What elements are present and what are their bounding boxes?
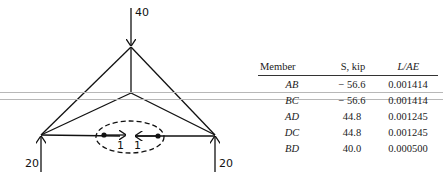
reaction-label-right: 20: [219, 157, 233, 170]
cell-member: DC: [258, 127, 326, 138]
header-force: S, kip: [327, 61, 378, 72]
table-row: AB − 56.6 0.001414: [258, 76, 438, 92]
cell-force: 40.0: [326, 143, 378, 154]
unit-load-label-right: 1: [134, 139, 141, 152]
table-row: AD 44.8 0.001245: [258, 108, 438, 124]
cell-force: − 56.6: [326, 79, 378, 90]
cell-member: BC: [258, 95, 326, 106]
virtual-point-left: [101, 132, 106, 137]
virtual-point-right: [155, 133, 160, 138]
cell-lae: 0.001414: [378, 79, 438, 90]
cell-force: − 56.6: [326, 95, 378, 106]
cell-lae: 0.001245: [378, 127, 438, 138]
table-row: DC 44.8 0.001245: [258, 124, 438, 140]
cut-ellipse: [96, 121, 164, 153]
reaction-label-left: 20: [25, 157, 39, 170]
table-row: BC − 56.6 0.001414: [258, 92, 438, 108]
cell-lae: 0.000500: [378, 143, 438, 154]
cell-member: BD: [258, 143, 326, 154]
header-member: Member: [258, 61, 327, 72]
member-bc: [131, 47, 215, 135]
cell-member: AD: [258, 111, 326, 122]
cell-lae: 0.001414: [378, 95, 438, 106]
table-header: Member S, kip L/AE: [258, 56, 438, 76]
cell-force: 44.8: [326, 127, 378, 138]
cell-force: 44.8: [326, 111, 378, 122]
load-label-top: 40: [135, 6, 149, 19]
unit-load-label-left: 1: [117, 139, 124, 152]
member-table: Member S, kip L/AE AB − 56.6 0.001414 BC…: [258, 56, 438, 156]
cell-member: AB: [258, 79, 326, 90]
table-row: BD 40.0 0.000500: [258, 140, 438, 156]
header-lae: L/AE: [379, 61, 438, 72]
cell-lae: 0.001245: [378, 111, 438, 122]
